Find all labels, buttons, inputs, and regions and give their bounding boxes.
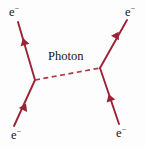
label-electron-outgoing-top-left: e− bbox=[9, 5, 19, 19]
electron-charge-sign: − bbox=[131, 4, 136, 13]
electron-symbol: e bbox=[116, 126, 122, 140]
electron-symbol: e bbox=[11, 128, 17, 142]
photon-exchange-line bbox=[35, 68, 100, 80]
electron-charge-sign: − bbox=[122, 125, 127, 134]
electron-symbol: e bbox=[125, 5, 131, 19]
label-electron-outgoing-top-right: e− bbox=[125, 5, 135, 19]
fermion-line-outgoing-top-right bbox=[100, 20, 127, 68]
feynman-diagram-figure: e− e− e− e− Photon bbox=[0, 0, 146, 147]
fermion-line-incoming-bottom-left bbox=[14, 80, 35, 126]
electron-charge-sign: − bbox=[17, 127, 22, 136]
electron-symbol: e bbox=[9, 5, 15, 19]
label-photon: Photon bbox=[48, 50, 83, 63]
label-electron-incoming-bottom-right: e− bbox=[116, 126, 126, 140]
label-electron-incoming-bottom-left: e− bbox=[11, 128, 21, 142]
arrowhead-outgoing-top-left bbox=[19, 37, 30, 46]
fermion-line-outgoing-top-left bbox=[18, 22, 35, 80]
electron-charge-sign: − bbox=[15, 4, 20, 13]
